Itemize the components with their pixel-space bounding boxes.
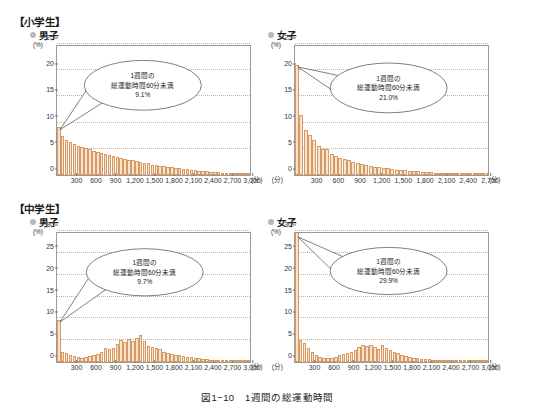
bar bbox=[403, 170, 407, 175]
x-axis-tick-label: 1,500 bbox=[146, 364, 164, 371]
y-axis-tick-label: 0 bbox=[50, 352, 54, 359]
y-axis-tick-label: 0 bbox=[288, 165, 292, 172]
bar bbox=[481, 173, 485, 175]
y-axis-unit-label: (%) bbox=[33, 42, 43, 49]
gridline bbox=[295, 43, 488, 44]
bar bbox=[369, 166, 373, 175]
y-tick-mark bbox=[293, 37, 296, 38]
bar bbox=[390, 169, 394, 175]
x-axis-tick-label: 2,100 bbox=[438, 177, 456, 184]
y-axis-tick-label: 25 bbox=[284, 242, 292, 249]
y-axis-tick-label: 15 bbox=[284, 286, 292, 293]
bar bbox=[408, 171, 412, 175]
x-axis-tick-label: 300 bbox=[311, 177, 323, 184]
x-axis-unit-label: (分) bbox=[489, 364, 500, 371]
bar bbox=[308, 135, 312, 175]
bullet-icon bbox=[268, 219, 274, 225]
bullet-icon bbox=[268, 32, 274, 38]
y-axis-tick-label: 15 bbox=[46, 286, 54, 293]
bar bbox=[451, 173, 455, 175]
x-axis-tick-label: 1,500 bbox=[384, 364, 402, 371]
series-label-elementary-girls: 女子 bbox=[268, 28, 297, 42]
bar bbox=[364, 165, 368, 175]
bar bbox=[330, 154, 334, 175]
x-axis-tick-label: 1,200 bbox=[373, 177, 391, 184]
y-axis-tick-label: 20 bbox=[284, 264, 292, 271]
y-axis-tick-label: 10 bbox=[284, 308, 292, 315]
x-axis-tick-label: 300 bbox=[309, 364, 321, 371]
y-axis-tick-label: 5 bbox=[288, 138, 292, 145]
gridline bbox=[57, 43, 250, 44]
y-axis-unit-label: (%) bbox=[271, 229, 281, 236]
bar-series bbox=[57, 233, 250, 362]
x-axis-tick-label: 2,700 bbox=[224, 177, 242, 184]
bar bbox=[373, 167, 377, 175]
x-axis-tick-label: 600 bbox=[332, 177, 344, 184]
y-axis-tick-label: 5 bbox=[50, 330, 54, 337]
section-title-juniorhigh: 【中学生】 bbox=[14, 201, 65, 216]
y-axis-tick-label: 20 bbox=[46, 264, 54, 271]
plot-area: 0510152025(%)3006009001,2001,5001,8002,1… bbox=[294, 45, 489, 176]
bar bbox=[486, 360, 488, 362]
bar bbox=[421, 172, 425, 175]
y-axis-tick-label: 15 bbox=[46, 86, 54, 93]
y-axis-tick-label: 25 bbox=[284, 34, 292, 41]
bar-series bbox=[295, 233, 488, 362]
x-axis-tick-label: 2,100 bbox=[185, 177, 203, 184]
x-axis-tick-label: 1,200 bbox=[364, 364, 382, 371]
bar bbox=[386, 168, 390, 175]
x-axis-unit-label-left: (分) bbox=[272, 364, 283, 371]
bar bbox=[486, 173, 488, 175]
bar bbox=[347, 160, 351, 175]
bullet-icon bbox=[30, 32, 36, 38]
y-axis-tick-label: 10 bbox=[46, 308, 54, 315]
x-axis-tick-label: 2,400 bbox=[204, 364, 222, 371]
bar bbox=[473, 173, 477, 175]
bar bbox=[248, 173, 250, 175]
plot-area: 0510152025(%)3006009001,2001,5001,8002,1… bbox=[56, 45, 251, 176]
x-axis-tick-label: 1,800 bbox=[165, 364, 183, 371]
x-axis-tick-label: 2,400 bbox=[442, 364, 460, 371]
bar bbox=[382, 168, 386, 175]
section-title-elementary: 【小学生】 bbox=[14, 14, 65, 29]
bar bbox=[438, 173, 442, 175]
x-axis-tick-label: 1,200 bbox=[126, 364, 144, 371]
x-axis-tick-label: 600 bbox=[90, 177, 102, 184]
y-axis-tick-label: 30 bbox=[284, 221, 292, 228]
bar bbox=[434, 173, 438, 176]
x-axis-tick-label: 2,400 bbox=[460, 177, 478, 184]
y-axis-tick-label: 20 bbox=[46, 60, 54, 67]
gridline bbox=[57, 230, 250, 231]
bar bbox=[425, 172, 429, 175]
plot-area: 051015202530(%)3006009001,2001,5001,8002… bbox=[56, 232, 251, 363]
x-axis-unit-label: (分) bbox=[489, 177, 500, 184]
bar bbox=[455, 173, 459, 175]
bar bbox=[312, 140, 316, 175]
x-axis-unit-label-left: (分) bbox=[272, 177, 283, 184]
y-axis-tick-label: 30 bbox=[46, 221, 54, 228]
x-axis-unit-label: (分) bbox=[251, 364, 262, 371]
y-axis-unit-label: (%) bbox=[33, 229, 43, 236]
bar bbox=[395, 170, 399, 176]
x-axis-tick-label: 600 bbox=[328, 364, 340, 371]
gridline bbox=[295, 230, 488, 231]
y-axis-tick-label: 15 bbox=[284, 86, 292, 93]
series-label-juniorhigh-boys: 男子 bbox=[30, 215, 59, 229]
bar bbox=[416, 171, 420, 175]
bar bbox=[338, 158, 342, 175]
chart-juniorhigh-boys: 051015202530(%)3006009001,2001,5001,8002… bbox=[56, 232, 251, 363]
plot-area: 051015202530(%)3006009001,2001,5001,8002… bbox=[294, 232, 489, 363]
x-axis-tick-label: 1,800 bbox=[403, 364, 421, 371]
y-tick-mark bbox=[293, 224, 296, 225]
x-axis-tick-label: 2,100 bbox=[185, 364, 203, 371]
y-tick-mark bbox=[55, 37, 58, 38]
bar bbox=[248, 360, 250, 362]
x-axis-tick-label: 600 bbox=[90, 364, 102, 371]
bar bbox=[321, 149, 325, 175]
x-axis-tick-label: 2,700 bbox=[224, 364, 242, 371]
x-axis-tick-label: 1,800 bbox=[165, 177, 183, 184]
x-axis-tick-label: 1,200 bbox=[126, 177, 144, 184]
bar bbox=[468, 173, 472, 175]
x-axis-tick-label: 900 bbox=[110, 177, 122, 184]
bar bbox=[477, 173, 481, 175]
